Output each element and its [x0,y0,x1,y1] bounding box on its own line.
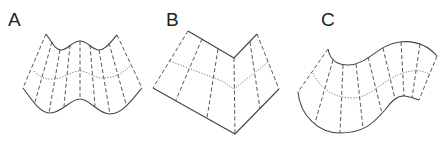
surface-a [23,34,142,114]
diagram-canvas [0,0,445,143]
surface-c [298,42,437,133]
surface-b [153,31,279,134]
